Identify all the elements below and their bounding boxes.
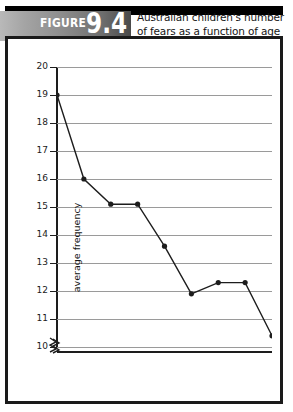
y-axis-tick-label: 18 <box>26 117 48 127</box>
data-point <box>108 202 113 207</box>
y-axis-tick <box>50 95 57 96</box>
figure-badge-word: FIGURE <box>40 15 86 30</box>
y-axis-title: average frequency <box>71 183 82 313</box>
y-axis-tick <box>50 235 57 236</box>
data-point <box>243 280 248 285</box>
y-axis-tick <box>50 179 57 180</box>
data-point <box>135 202 140 207</box>
figure-badge-number: 9.4 <box>86 11 127 38</box>
line-series <box>57 67 272 352</box>
y-axis-tick <box>50 319 57 320</box>
data-point <box>216 280 221 285</box>
y-axis-tick <box>50 207 57 208</box>
y-axis-tick <box>50 123 57 124</box>
data-point <box>189 291 194 296</box>
y-axis-tick-label: 11 <box>26 313 48 323</box>
y-axis-tick-label: 20 <box>26 61 48 71</box>
y-axis-tick-label: 10 <box>26 341 48 351</box>
data-point <box>57 92 60 97</box>
y-axis-tick-label: 14 <box>26 229 48 239</box>
data-point <box>162 244 167 249</box>
data-point <box>81 176 86 181</box>
y-axis-tick <box>50 347 57 348</box>
data-point <box>269 333 272 338</box>
figure-title: Australian children's number of fears as… <box>137 10 287 38</box>
series-line <box>57 95 272 336</box>
y-axis-tick-label: 13 <box>26 257 48 267</box>
figure-panel: FIGURE 9.4 Australian children's number … <box>0 0 293 412</box>
y-axis-tick-label: 15 <box>26 201 48 211</box>
y-axis-tick <box>50 291 57 292</box>
y-axis-tick <box>50 67 57 68</box>
plot-area: average frequency age in years 891011121… <box>57 67 272 347</box>
y-axis-tick <box>50 263 57 264</box>
y-axis-tick-label: 19 <box>26 89 48 99</box>
y-axis-tick <box>50 151 57 152</box>
y-axis-tick-label: 16 <box>26 173 48 183</box>
y-axis-tick-label: 12 <box>26 285 48 295</box>
y-axis-tick-label: 17 <box>26 145 48 155</box>
